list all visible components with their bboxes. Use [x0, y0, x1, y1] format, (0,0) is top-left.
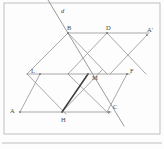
edge-m-h-highlighted [62, 74, 88, 112]
vertex-dot-aprime [146, 34, 148, 36]
label-vertex-d: D [106, 25, 111, 32]
vertex-dot-a [19, 111, 21, 113]
label-vertex-f: F [130, 68, 134, 75]
vertex-dot-b [67, 32, 69, 34]
edge-l-a [20, 74, 40, 112]
figure-frame [4, 3, 160, 134]
label-vertex-m: M [92, 75, 98, 82]
label-line-d: d [61, 8, 64, 15]
edge-d-f [107, 33, 146, 74]
edge-aprime-f [110, 35, 147, 74]
edge-l-h [27, 74, 66, 114]
vertex-dot-c [108, 111, 110, 113]
label-vertex-b: B [67, 25, 71, 32]
label-vertex-a: A [10, 108, 15, 115]
vertex-dot-h [61, 111, 63, 113]
vertex-dot-m [87, 73, 89, 75]
vertex-dot-f [126, 73, 128, 75]
vertex-dot-l [39, 73, 41, 75]
geometry-figure: d B D A' L M F A H C [0, 0, 164, 149]
vertex-dot-d [106, 32, 108, 34]
label-vertex-a-prime: A' [147, 27, 153, 34]
label-vertex-c: C [113, 104, 117, 111]
label-vertex-l: L [31, 68, 35, 75]
label-vertex-h: H [61, 117, 66, 124]
figure-canvas [0, 0, 164, 149]
